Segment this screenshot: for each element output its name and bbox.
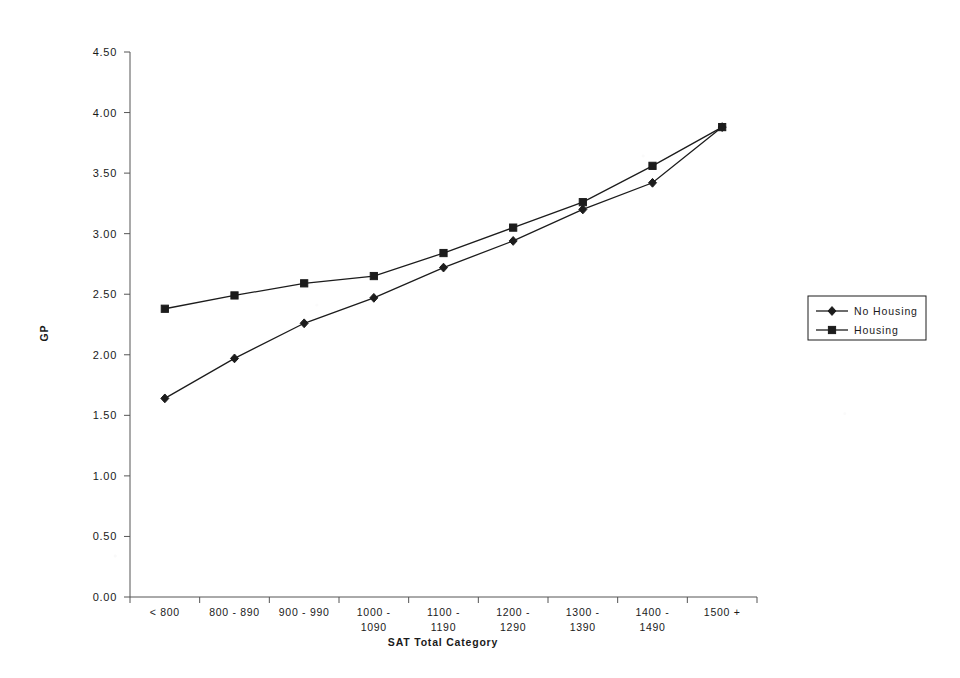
x-category-label-line: 1500 + [704,606,741,618]
x-axis-ticks [130,597,757,603]
square-marker-icon [719,123,726,130]
y-tick-label: 4.00 [93,107,117,119]
chart-container: GP 4.504.003.503.002.502.001.501.000.500… [0,0,960,678]
x-category-label-line: 1390 [570,621,596,633]
diamond-marker-icon [649,178,657,187]
y-tick-label: 1.50 [93,409,117,421]
x-category-label: 1500 + [704,606,741,618]
x-category-label: 1000 -1090 [357,606,391,633]
plot-axes [130,52,757,597]
x-category-label: 900 - 990 [279,606,330,618]
legend-entry-label[interactable]: Housing [854,324,899,336]
square-marker-icon [579,199,586,206]
diamond-marker-icon [231,354,239,363]
square-marker-icon [370,272,377,279]
y-tick-label: 3.00 [93,228,117,240]
x-category-label: 1100 -1190 [427,606,460,633]
x-category-label: 1200 -1290 [496,606,530,633]
square-marker-icon [440,249,447,256]
square-marker-icon [649,162,656,169]
x-category-label-line: 1000 - [357,606,391,618]
x-category-label-line: 1100 - [427,606,460,618]
sat-gp-line-chart: GP 4.504.003.503.002.502.001.501.000.500… [0,0,960,678]
x-category-label-line: 1090 [361,621,387,633]
x-category-label: 1300 -1390 [566,606,600,633]
x-category-label-line: 1400 - [636,606,670,618]
diamond-marker-icon [300,319,308,328]
y-tick-label: 2.50 [93,288,117,300]
diamond-marker-icon [579,205,587,214]
x-category-label-line: 1290 [500,621,526,633]
y-tick-label: 0.50 [93,530,117,542]
y-tick-label: 4.50 [93,46,117,58]
square-marker-icon [231,292,238,299]
x-category-label-line: 1300 - [566,606,600,618]
y-axis-title-text: GP [38,325,50,342]
square-marker-icon [301,280,308,287]
chart-legend[interactable]: No HousingHousing [808,296,926,340]
diamond-marker-icon [509,237,517,246]
series-line-path [165,127,722,309]
x-axis-title-text: SAT Total Category [388,636,498,648]
y-axis-ticks: 4.504.003.503.002.502.001.501.000.500.00 [93,46,130,603]
square-marker-icon [510,224,517,231]
diamond-marker-icon [370,293,378,302]
x-category-label-line: 800 - 890 [209,606,260,618]
diamond-marker-icon [440,263,448,272]
x-category-label-line: 1490 [639,621,665,633]
x-category-label-line: 1200 - [496,606,530,618]
x-category-label: 1400 -1490 [636,606,670,633]
y-tick-label: 2.00 [93,349,117,361]
y-tick-label: 3.50 [93,167,117,179]
square-marker-icon [161,305,168,312]
y-tick-label: 0.00 [93,591,117,603]
diamond-marker-icon [161,394,169,403]
x-category-label-line: 1190 [431,621,456,633]
square-marker-icon [828,326,835,333]
data-series [161,123,726,312]
x-category-label: 800 - 890 [209,606,260,618]
x-category-label-line: 900 - 990 [279,606,330,618]
y-tick-label: 1.00 [93,470,117,482]
legend-entry-label[interactable]: No Housing [854,305,918,317]
x-category-label: < 800 [150,606,180,618]
data-series [161,123,726,403]
data-series-layer [161,123,726,403]
y-axis-title: GP [38,325,50,342]
x-category-label-line: < 800 [150,606,180,618]
x-axis-category-labels: < 800800 - 890900 - 9901000 -10901100 -1… [150,606,741,633]
